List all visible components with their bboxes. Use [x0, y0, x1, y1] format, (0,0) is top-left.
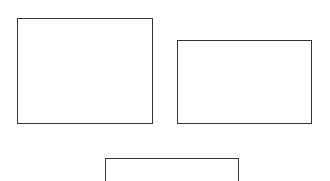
diagram-canvas: [0, 0, 330, 181]
box-top-left: [17, 18, 153, 124]
box-right: [177, 40, 312, 124]
box-bottom-center: [105, 158, 239, 181]
